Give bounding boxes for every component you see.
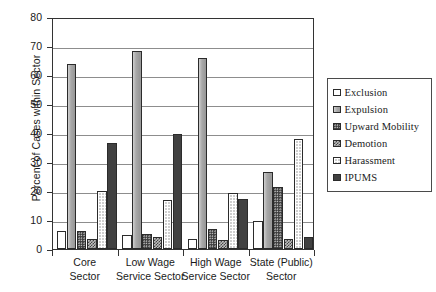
bar-exclusion[interactable] — [122, 235, 132, 249]
legend-item-exclusion[interactable]: Exclusion — [333, 84, 427, 101]
legend-item-harassment[interactable]: Harassment — [333, 152, 427, 169]
legend-item-expulsion[interactable]: Expulsion — [333, 101, 427, 118]
bar-demotion[interactable] — [153, 237, 163, 249]
legend-label: IPUMS — [345, 172, 378, 183]
legend-item-ipums[interactable]: IPUMS — [333, 169, 427, 186]
bar-expulsion[interactable] — [132, 51, 142, 249]
bar-expulsion[interactable] — [198, 58, 208, 249]
bar-cluster — [119, 19, 185, 249]
y-axis-tick-label: 70 — [2, 40, 42, 52]
legend-swatch-icon — [333, 106, 341, 114]
legend-label: Exclusion — [345, 87, 388, 98]
bar-exclusion[interactable] — [57, 231, 67, 249]
bar-ipums[interactable] — [304, 237, 314, 249]
bar-expulsion[interactable] — [67, 64, 77, 249]
bar-demotion[interactable] — [87, 239, 97, 249]
legend-item-demotion[interactable]: Demotion — [333, 135, 427, 152]
bar-ipums[interactable] — [107, 143, 117, 249]
bar-harassment[interactable] — [294, 139, 304, 249]
bar-group — [184, 19, 250, 249]
y-axis-tick-label: 30 — [2, 156, 42, 168]
bar-ipums[interactable] — [238, 199, 248, 249]
bar-upward-mobility[interactable] — [273, 187, 283, 249]
bar-exclusion[interactable] — [188, 239, 198, 249]
bar-ipums[interactable] — [173, 134, 183, 249]
legend-swatch-icon — [333, 140, 341, 148]
bar-demotion[interactable] — [284, 239, 294, 249]
bar-harassment[interactable] — [97, 191, 107, 249]
legend-swatch-icon — [333, 89, 341, 97]
bar-group — [119, 19, 185, 249]
bar-cluster — [184, 19, 250, 249]
bar-cluster — [250, 19, 316, 249]
bar-exclusion[interactable] — [253, 221, 263, 249]
legend-label: Harassment — [345, 155, 396, 166]
bar-group — [53, 19, 119, 249]
x-axis-category-line: Sector — [237, 270, 327, 284]
y-axis-tick-label: 60 — [2, 69, 42, 81]
bar-chart: Percent of Cases within Sector 807060504… — [0, 0, 436, 292]
bar-cluster — [53, 19, 119, 249]
x-axis-category-line: State (Public) — [237, 256, 327, 270]
legend-swatch-icon — [333, 157, 341, 165]
bar-demotion[interactable] — [218, 240, 228, 249]
legend-item-upward-mobility[interactable]: Upward Mobility — [333, 118, 427, 135]
bar-group — [250, 19, 316, 249]
plot-area — [52, 18, 314, 250]
bar-harassment[interactable] — [163, 200, 173, 249]
y-axis-tick-label: 10 — [2, 214, 42, 226]
bar-groups — [53, 19, 313, 249]
bar-upward-mobility[interactable] — [77, 231, 87, 249]
x-axis-category-label: State (Public)Sector — [237, 256, 327, 283]
bar-expulsion[interactable] — [263, 172, 273, 249]
bar-harassment[interactable] — [228, 193, 238, 249]
legend-label: Demotion — [345, 138, 388, 149]
y-axis-tick-label: 0 — [2, 243, 42, 255]
legend-label: Expulsion — [345, 104, 389, 115]
bar-upward-mobility[interactable] — [208, 229, 218, 249]
legend-swatch-icon — [333, 123, 341, 131]
legend-swatch-icon — [333, 174, 341, 182]
y-axis-tick-label: 20 — [2, 185, 42, 197]
bar-upward-mobility[interactable] — [142, 234, 152, 249]
y-axis-tick-label: 40 — [2, 127, 42, 139]
y-axis-tick-label: 50 — [2, 98, 42, 110]
legend-label: Upward Mobility — [345, 121, 420, 132]
chart-legend: ExclusionExpulsionUpward MobilityDemotio… — [327, 78, 432, 192]
y-axis-tick-label: 80 — [2, 11, 42, 23]
